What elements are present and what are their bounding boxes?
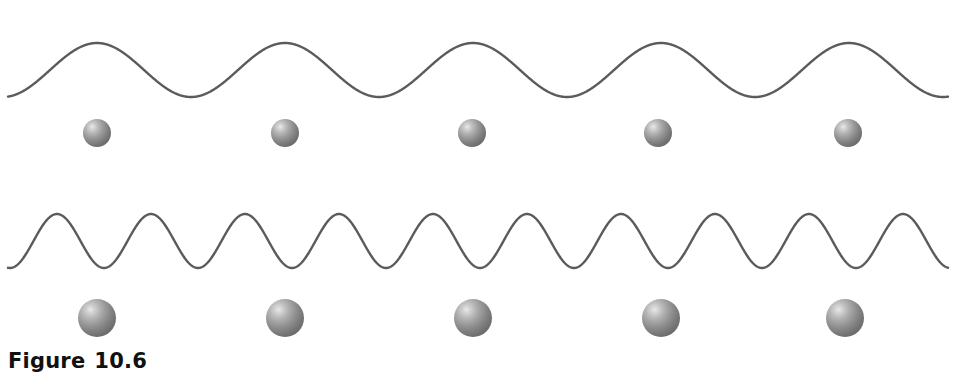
figure-10-6: Figure10.6 <box>0 0 956 376</box>
long-wavelength-wave <box>8 43 948 97</box>
figure-caption: Figure10.6 <box>8 349 147 373</box>
small-particles-3 <box>458 119 486 147</box>
large-particles-2 <box>266 299 304 337</box>
large-particles-3 <box>454 299 492 337</box>
large-particles-1 <box>78 299 116 337</box>
large-particles-5 <box>826 299 864 337</box>
short-wavelength-wave <box>8 214 948 268</box>
large-particles-4 <box>642 299 680 337</box>
figure-caption-number: 10.6 <box>94 349 147 373</box>
small-particles-2 <box>271 119 299 147</box>
small-particles-5 <box>834 119 862 147</box>
figure-caption-label: Figure <box>8 349 85 373</box>
small-particles-4 <box>644 119 672 147</box>
small-particles-1 <box>83 119 111 147</box>
